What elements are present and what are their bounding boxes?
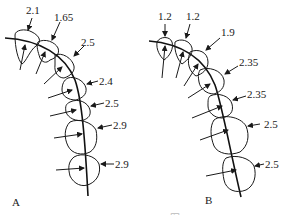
value-label-b-6: 2.5 [264,118,278,130]
lobe-a-5 [66,100,91,120]
value-label-b-2: 1.2 [186,10,200,22]
value-label-a-2: 1.65 [54,11,74,23]
arrow-icon [36,52,45,74]
arrow-icon [184,64,198,86]
figure-caption: ……图 [150,210,180,215]
label-arrow-icon [28,18,32,30]
value-label-b-4: 2.35 [239,56,259,68]
label-arrow-icon [206,38,220,50]
value-label-a-1: 2.1 [26,4,40,16]
arrow-icon [192,106,222,118]
arrow-icon [54,134,82,138]
arrow-icon [20,45,25,70]
panel-label-a: A [12,196,20,208]
label-arrow-icon [87,81,98,84]
label-arrow-icon [186,24,190,38]
arrow-icon [162,46,165,78]
lobe-b-4 [198,68,224,94]
value-label-a-7: 2.9 [115,158,129,170]
value-label-b-3: 1.9 [221,26,235,38]
value-label-b-1: 1.2 [158,10,172,22]
value-label-a-3: 2.5 [81,36,95,48]
arrow-icon [56,168,84,170]
value-label-a-6: 2.9 [113,119,127,131]
label-arrow-icon [248,124,260,126]
arrow-icon [200,130,228,140]
value-label-a-4: 2.4 [99,75,113,87]
panel-label-b: B [205,194,212,206]
label-arrow-icon [98,125,112,128]
label-arrow-icon [225,66,238,74]
lobe-a-3 [55,54,74,78]
panel-a: 2.1 1.65 2.5 2.4 2.5 2.9 2.9 A [5,4,129,208]
lobe-a-1 [15,30,39,64]
label-arrow-icon [255,164,264,166]
label-arrow-icon [52,22,60,40]
arrow-icon [44,67,62,84]
arrow-icon [48,90,72,98]
lobe-a-4 [62,77,86,100]
value-label-a-5: 2.5 [105,97,119,109]
value-label-b-7: 2.5 [265,158,279,170]
arrow-icon [50,110,76,116]
value-label-b-5: 2.35 [247,88,267,100]
arrow-icon [206,170,236,176]
label-arrow-icon [233,96,246,100]
label-arrow-icon [91,103,104,106]
lobe-a-7 [69,155,100,186]
panel-b: 1.2 1.2 1.9 2.35 2.35 2.5 2.5 B [149,10,279,206]
diagram-canvas: 2.1 1.65 2.5 2.4 2.5 2.9 2.9 A 1. [0,0,285,215]
arrow-icon [188,84,210,98]
lobe-a-6 [65,120,97,154]
